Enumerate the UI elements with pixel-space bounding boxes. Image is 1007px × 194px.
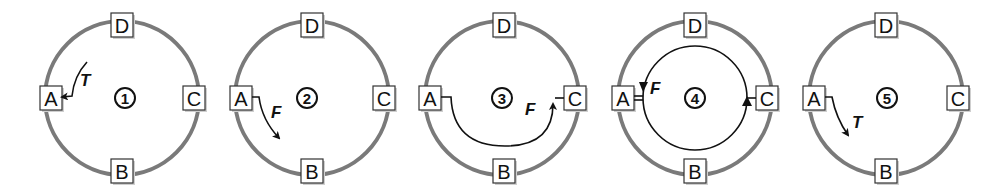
- node-d: D: [493, 13, 517, 39]
- node-d: D: [111, 13, 135, 39]
- node-a: A: [803, 86, 827, 112]
- panel-1: D A C B 1 T: [40, 13, 207, 185]
- svg-text:A: A: [234, 88, 248, 110]
- node-c: C: [183, 86, 207, 112]
- node-b: B: [684, 159, 708, 185]
- panel-4: D A C B 4 F: [612, 13, 780, 185]
- node-d: D: [875, 13, 899, 39]
- frame-label: F: [525, 100, 536, 119]
- node-b: B: [493, 159, 517, 185]
- node-c: C: [756, 86, 780, 112]
- svg-text:2: 2: [303, 90, 311, 107]
- token-arrow: [825, 97, 848, 135]
- panel-2: D A C B 2 F: [230, 13, 397, 185]
- step-badge: 2: [297, 88, 317, 108]
- svg-text:D: D: [305, 15, 319, 37]
- node-c: C: [373, 86, 397, 112]
- svg-text:A: A: [807, 88, 821, 110]
- svg-text:A: A: [44, 88, 58, 110]
- svg-text:A: A: [423, 88, 437, 110]
- frame-label: F: [650, 79, 661, 98]
- node-b: B: [111, 159, 135, 185]
- svg-text:B: B: [688, 161, 701, 183]
- svg-text:B: B: [305, 161, 318, 183]
- svg-text:B: B: [115, 161, 128, 183]
- svg-text:3: 3: [498, 90, 506, 107]
- node-a: A: [40, 86, 64, 112]
- node-d: D: [301, 13, 325, 39]
- svg-text:D: D: [115, 15, 129, 37]
- step-badge: 3: [492, 88, 512, 108]
- svg-text:C: C: [951, 88, 965, 110]
- node-d: D: [684, 13, 708, 39]
- svg-text:D: D: [879, 15, 893, 37]
- step-badge: 4: [685, 88, 705, 108]
- step-badge: 5: [877, 88, 897, 108]
- arrow-into-a-icon: [639, 82, 648, 92]
- svg-text:D: D: [688, 15, 702, 37]
- svg-text:C: C: [568, 88, 582, 110]
- svg-text:5: 5: [883, 90, 891, 107]
- node-b: B: [301, 159, 325, 185]
- node-b: B: [875, 159, 899, 185]
- token-label: T: [80, 71, 92, 90]
- node-c: C: [947, 86, 971, 112]
- svg-text:1: 1: [121, 90, 129, 107]
- svg-text:4: 4: [691, 90, 700, 107]
- svg-text:C: C: [187, 88, 201, 110]
- node-c: C: [564, 86, 588, 112]
- svg-text:C: C: [760, 88, 774, 110]
- token-label: T: [852, 113, 864, 132]
- svg-text:B: B: [879, 161, 892, 183]
- token-ring-diagram: D A C B 1 T D: [0, 0, 1007, 194]
- svg-text:A: A: [616, 88, 630, 110]
- node-a: A: [419, 86, 443, 112]
- node-a: A: [230, 86, 254, 112]
- svg-text:C: C: [377, 88, 391, 110]
- frame-label: F: [271, 103, 282, 122]
- step-badge: 1: [115, 88, 135, 108]
- panel-5: D A C B 5 T: [803, 13, 971, 185]
- panel-3: D A C B 3 F: [419, 13, 588, 185]
- svg-text:B: B: [497, 161, 510, 183]
- node-a: A: [612, 86, 636, 112]
- svg-text:D: D: [497, 15, 511, 37]
